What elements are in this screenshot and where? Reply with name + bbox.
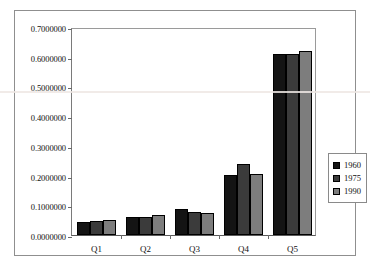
x-axis-tick-mark — [170, 235, 171, 239]
bar-group — [268, 29, 317, 235]
bar-group — [170, 29, 219, 235]
y-axis-tick-label: 0.0000000 — [31, 232, 72, 242]
bar-q2-1960 — [126, 217, 139, 235]
y-axis-tick-label: 0.1000000 — [31, 202, 72, 212]
bar-q1-1990 — [103, 220, 116, 235]
bar-q2-1990 — [152, 215, 165, 235]
x-axis-label-q3: Q3 — [189, 244, 200, 254]
y-axis-tick-label: 0.6000000 — [31, 54, 72, 64]
legend-label-1975: 1975 — [344, 173, 361, 183]
y-axis-tick-label: 0.2000000 — [31, 173, 72, 183]
legend-label-1960: 1960 — [344, 160, 361, 170]
legend-swatch-1960 — [333, 162, 340, 169]
x-axis-tick-mark — [219, 235, 220, 239]
y-axis-tick-label: 0.3000000 — [31, 143, 72, 153]
bar-q1-1960 — [77, 222, 90, 235]
x-axis-label-q5: Q5 — [287, 244, 298, 254]
legend-item-1975[interactable]: 1975 — [333, 172, 361, 184]
legend-item-1960[interactable]: 1960 — [333, 159, 361, 171]
bar-q5-1960 — [273, 54, 286, 235]
bar-q1-1975 — [90, 221, 103, 235]
plot-area: 0.70000000.60000000.50000000.40000000.30… — [71, 28, 316, 236]
bar-q5-1990 — [299, 51, 312, 235]
bar-q5-1975 — [286, 54, 299, 235]
y-axis-tick-label: 0.7000000 — [31, 24, 72, 34]
bar-q4-1960 — [224, 175, 237, 235]
x-axis-label-q1: Q1 — [91, 244, 102, 254]
legend-swatch-1990 — [333, 188, 340, 195]
bar-group — [219, 29, 268, 235]
y-axis-tick-label: 0.4000000 — [31, 113, 72, 123]
legend-label-1990: 1990 — [344, 186, 361, 196]
bar-q3-1975 — [188, 212, 201, 235]
bar-group — [72, 29, 121, 235]
bar-q3-1960 — [175, 209, 188, 235]
x-axis-label-q2: Q2 — [140, 244, 151, 254]
x-axis-tick-mark — [268, 235, 269, 239]
legend-item-1990[interactable]: 1990 — [333, 185, 361, 197]
bar-group — [121, 29, 170, 235]
x-axis-tick-mark — [121, 235, 122, 239]
y-axis-tick-label: 0.5000000 — [31, 83, 72, 93]
chart-frame: 0.70000000.60000000.50000000.40000000.30… — [14, 10, 356, 256]
legend-swatch-1975 — [333, 175, 340, 182]
bar-q4-1990 — [250, 174, 263, 235]
x-axis-label-q4: Q4 — [238, 244, 249, 254]
bar-q3-1990 — [201, 213, 214, 235]
chart-legend: 196019751990 — [328, 153, 367, 203]
bar-q4-1975 — [237, 164, 250, 235]
bar-q2-1975 — [139, 217, 152, 235]
